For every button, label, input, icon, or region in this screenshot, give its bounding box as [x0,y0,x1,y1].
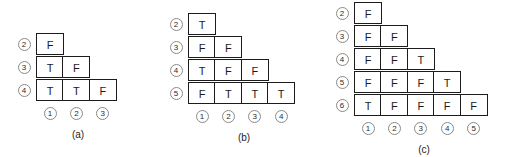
truth-cell: F [89,79,117,101]
truth-cell: T [407,48,435,70]
table-row: FF [354,25,486,48]
row-index-badge: 2 [170,18,183,31]
table-row: FTTT [188,82,294,105]
cell-grid: TFFTFFFTTT [188,13,294,105]
truth-cell: T [36,79,64,101]
col-label-slot: 4 [433,122,461,135]
column-index-badge: 1 [362,122,375,135]
column-index-badge: 2 [388,122,401,135]
column-index-badge: 3 [96,107,109,120]
col-label-slot: 1 [36,107,64,120]
panel-caption-c: (c) [354,144,494,155]
col-label-slot: 1 [354,122,382,135]
truth-cell: F [433,94,461,116]
column-index-badge: 1 [196,110,209,123]
column-index-badge: 1 [44,107,57,120]
row-label-slot: 2 [332,2,352,25]
row-label-slot: 5 [332,71,352,94]
column-index-badge: 2 [70,107,83,120]
row-label-column: 2345 [166,13,186,105]
row-index-badge: 4 [170,64,183,77]
row-label-slot: 5 [166,82,186,105]
col-label-slot: 2 [214,110,242,123]
col-label-slot: 2 [380,122,408,135]
row-label-slot: 2 [14,33,34,56]
row-label-column: 234 [14,33,34,102]
row-index-badge: 6 [336,99,349,112]
column-index-badge: 5 [467,122,480,135]
table-row: T [188,13,294,36]
truth-cell: T [214,82,242,104]
table-row: F [354,2,486,25]
cell-grid: FFFFFTFFFTTFFFF [354,2,486,117]
truth-cell: F [460,94,488,116]
truth-cell: F [62,56,90,78]
col-label-slot: 3 [89,107,117,120]
truth-cell: F [214,36,242,58]
row-index-badge: 4 [336,53,349,66]
truth-cell: F [188,82,216,104]
column-label-row: 12345 [354,122,486,135]
col-label-slot: 5 [460,122,488,135]
row-label-slot: 3 [332,25,352,48]
row-index-badge: 5 [336,76,349,89]
truth-cell: T [62,79,90,101]
column-index-badge: 3 [414,122,427,135]
truth-cell: F [380,94,408,116]
table-row: TFF [188,59,294,82]
row-label-slot: 4 [166,59,186,82]
col-label-slot: 4 [267,110,295,123]
row-label-slot: 4 [14,79,34,102]
truth-cell: F [380,48,408,70]
col-label-slot: 2 [62,107,90,120]
truth-cell: F [36,33,64,55]
truth-cell: F [354,48,382,70]
truth-cell: T [36,56,64,78]
row-label-slot: 4 [332,48,352,71]
col-label-slot: 3 [241,110,269,123]
table-row: TTF [36,79,115,102]
truth-cell: F [354,25,382,47]
table-row: F [36,33,115,56]
truth-cell: T [241,82,269,104]
row-label-slot: 3 [166,36,186,59]
column-index-badge: 2 [222,110,235,123]
row-index-badge: 4 [18,84,31,97]
panel-caption-a: (a) [36,129,120,140]
row-label-slot: 6 [332,94,352,117]
truth-cell: T [267,82,295,104]
truth-cell: F [407,71,435,93]
column-index-badge: 3 [248,110,261,123]
row-label-slot: 2 [166,13,186,36]
column-label-row: 1234 [188,110,294,123]
truth-cell: F [407,94,435,116]
cell-grid: FTFTTF [36,33,115,102]
truth-cell: F [214,59,242,81]
row-index-badge: 5 [170,87,183,100]
truth-cell: F [354,71,382,93]
truth-cell: T [433,71,461,93]
truth-cell: F [354,2,382,24]
row-label-column: 23456 [332,2,352,117]
table-row: FFFT [354,71,486,94]
truth-cell: F [241,59,269,81]
row-label-slot: 3 [14,56,34,79]
table-row: FF [188,36,294,59]
column-index-badge: 4 [275,110,288,123]
row-index-badge: 2 [18,38,31,51]
truth-cell: F [188,36,216,58]
truth-cell: T [188,13,216,35]
col-label-slot: 3 [407,122,435,135]
table-row: FFT [354,48,486,71]
figure-container: 234FTFTTF123(a) 2345TFFTFFFTTT1234(b) 23… [0,0,521,157]
column-index-badge: 4 [441,122,454,135]
truth-cell: T [188,59,216,81]
col-label-slot: 1 [188,110,216,123]
column-label-row: 123 [36,107,115,120]
row-index-badge: 2 [336,7,349,20]
row-index-badge: 3 [170,41,183,54]
row-index-badge: 3 [336,30,349,43]
panel-caption-b: (b) [188,132,300,143]
row-index-badge: 3 [18,61,31,74]
truth-cell: T [354,94,382,116]
